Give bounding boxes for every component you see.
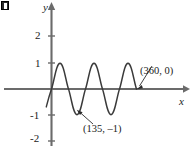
- y-tick-label-2: 2: [35, 30, 41, 41]
- point-label-360-0: (360, 0): [140, 65, 173, 76]
- sine-graph-figure: 2 1 -1 -2 y x (360, 0) (135, –1): [0, 0, 192, 151]
- x-axis: [4, 85, 190, 93]
- y-tick-label-minus-2: -2: [30, 133, 39, 144]
- y-axis: [48, 2, 55, 146]
- point-label-135-neg1: (135, –1): [83, 123, 122, 134]
- y-tick-label-minus-1: -1: [30, 110, 39, 121]
- y-tick-label-1: 1: [35, 58, 41, 69]
- x-axis-label: x: [179, 96, 184, 107]
- y-axis-label: y: [43, 2, 48, 13]
- annotation-leader-135: [77, 110, 93, 124]
